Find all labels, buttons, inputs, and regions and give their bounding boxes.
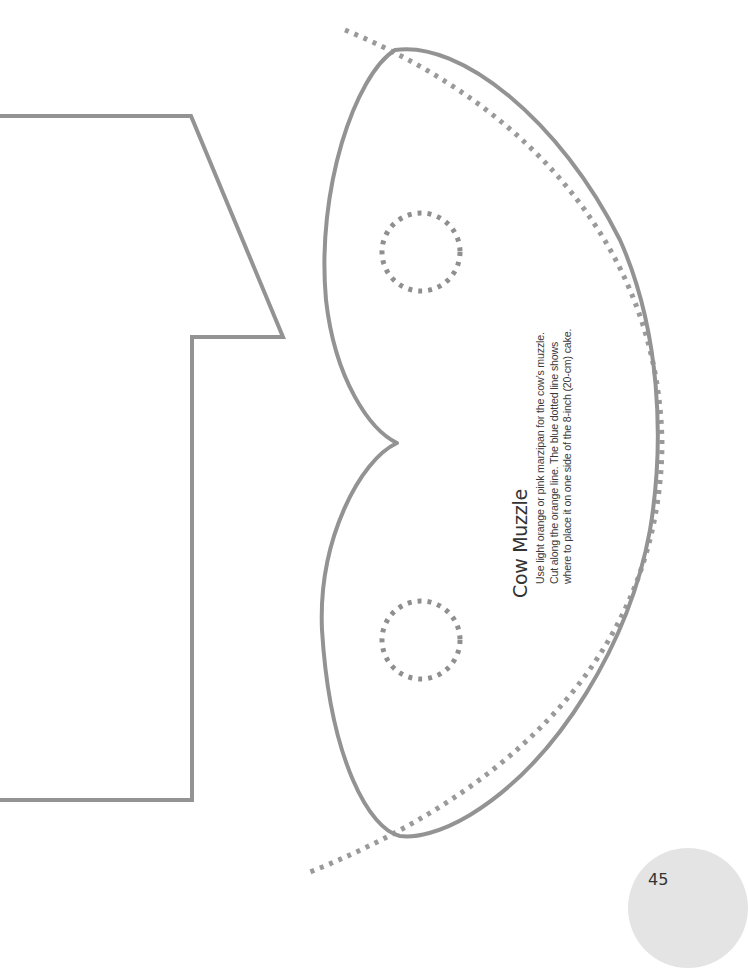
nostril-guide-top: [382, 213, 460, 291]
template-caption: Cow Muzzle Use light orange or pink marz…: [509, 228, 575, 598]
page-number-badge: [628, 848, 748, 968]
nostril-guide-bottom: [382, 601, 460, 679]
cow-head-outline: [0, 116, 283, 800]
instruction-line-3: where to place it on one side of the 8-i…: [561, 228, 575, 598]
instruction-line-2: Cut along the orange line. The blue dott…: [548, 228, 562, 598]
muzzle-outline: [322, 49, 658, 836]
instruction-line-1: Use light orange or pink marzipan for th…: [534, 228, 548, 598]
template-title: Cow Muzzle: [509, 228, 531, 598]
page-number: 45: [648, 870, 668, 889]
cake-edge-guide: [310, 30, 662, 872]
